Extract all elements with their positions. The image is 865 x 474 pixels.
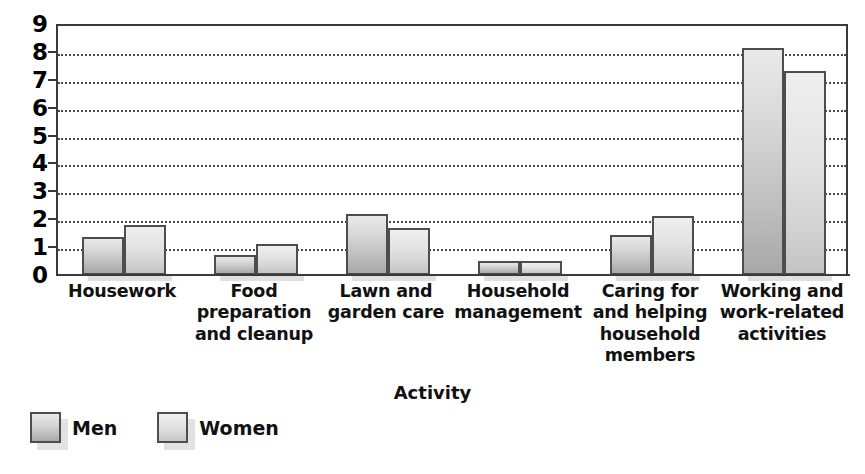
- gridline: [58, 249, 846, 251]
- x-axis-category-label: Working andwork-relatedactivities: [716, 281, 848, 345]
- bar-group: [214, 24, 298, 275]
- x-axis-category-label-line: Housework: [56, 281, 188, 302]
- bar-rect: [742, 48, 784, 275]
- x-axis-category-label-line: preparation: [188, 302, 320, 323]
- x-axis-category-label-line: Lawn and: [320, 281, 452, 302]
- x-axis-category-label-line: household: [584, 324, 716, 345]
- x-axis-category-label: Foodpreparationand cleanup: [188, 281, 320, 345]
- bar-rect: [478, 261, 520, 275]
- x-axis-category-label-line: members: [584, 345, 716, 366]
- y-axis-tick-mark: [48, 51, 57, 53]
- bar-men: [478, 261, 520, 275]
- y-axis-tick-label: 0: [14, 264, 48, 287]
- legend-swatch: [30, 412, 61, 443]
- y-axis-tick-mark: [48, 246, 57, 248]
- x-axis-category-label: Caring forand helpinghouseholdmembers: [584, 281, 716, 366]
- gridline: [58, 193, 846, 195]
- x-axis-category-label-line: activities: [716, 324, 848, 345]
- chart-legend: MenWomen: [30, 412, 319, 443]
- bar-women: [124, 225, 166, 275]
- x-axis-category-label-line: and cleanup: [188, 324, 320, 345]
- bar-women: [520, 261, 562, 275]
- bar-rect: [388, 228, 430, 275]
- legend-label: Women: [199, 417, 279, 439]
- x-axis-category-label-line: work-related: [716, 302, 848, 323]
- y-axis-tick-mark: [48, 107, 57, 109]
- y-axis-tick-mark: [48, 218, 57, 220]
- legend-label: Men: [72, 417, 117, 439]
- x-axis-category-label-line: Household: [452, 281, 584, 302]
- gridline: [58, 54, 846, 56]
- gridline: [58, 110, 846, 112]
- bar-group: [82, 24, 166, 275]
- legend-item-women[interactable]: Women: [157, 412, 319, 443]
- bar-rect: [214, 255, 256, 275]
- x-axis-title: Activity: [0, 382, 865, 403]
- gridline: [58, 221, 846, 223]
- bar-women: [256, 244, 298, 275]
- bar-rect: [520, 261, 562, 275]
- y-axis-tick-label: 3: [14, 180, 48, 203]
- y-axis-tick-mark: [48, 79, 57, 81]
- x-axis-category-label: Householdmanagement: [452, 281, 584, 324]
- x-axis-category-label-line: garden care: [320, 302, 452, 323]
- x-axis-category-label-line: Food: [188, 281, 320, 302]
- bar-women: [652, 216, 694, 275]
- x-axis-category-label-line: Working and: [716, 281, 848, 302]
- bar-men: [346, 214, 388, 275]
- plot-area: [56, 24, 848, 275]
- bar-rect: [610, 235, 652, 275]
- bar-rect: [346, 214, 388, 275]
- x-axis-category-label-line: Caring for: [584, 281, 716, 302]
- bar-men: [610, 235, 652, 275]
- x-axis-category-label-line: management: [452, 302, 584, 323]
- bar-men: [742, 48, 784, 275]
- y-axis-tick-label: 7: [14, 68, 48, 91]
- y-axis-tick-mark: [48, 162, 57, 164]
- bar-rect: [82, 237, 124, 275]
- y-axis-tick-label: 6: [14, 96, 48, 119]
- y-axis-tick-mark: [48, 135, 57, 137]
- legend-swatch: [157, 412, 188, 443]
- x-axis-category-label: Housework: [56, 281, 188, 302]
- y-axis-tick-label: 5: [14, 124, 48, 147]
- y-axis-tick-label: 2: [14, 208, 48, 231]
- y-axis-tick-label: 9: [14, 13, 48, 36]
- x-axis-category-label: Lawn andgarden care: [320, 281, 452, 324]
- bar-rect: [784, 71, 826, 275]
- y-axis-tick-label: 4: [14, 152, 48, 175]
- legend-item-men[interactable]: Men: [30, 412, 157, 443]
- bar-group: [742, 24, 826, 275]
- bar-group: [478, 24, 562, 275]
- y-axis-tick-mark: [48, 190, 57, 192]
- bar-rect: [124, 225, 166, 275]
- bar-group: [346, 24, 430, 275]
- y-axis-tick-label: 1: [14, 236, 48, 259]
- bar-women: [388, 228, 430, 275]
- bar-chart: 9876543210 Activity MenWomen HouseworkFo…: [0, 0, 865, 474]
- bar-men: [214, 255, 256, 275]
- x-axis-category-label-line: and helping: [584, 302, 716, 323]
- bar-men: [82, 237, 124, 275]
- gridline: [58, 165, 846, 167]
- gridline: [58, 82, 846, 84]
- bar-rect: [256, 244, 298, 275]
- x-axis-line: [56, 274, 850, 276]
- y-axis-tick-label: 8: [14, 40, 48, 63]
- gridline: [58, 138, 846, 140]
- bar-women: [784, 71, 826, 275]
- bar-rect: [652, 216, 694, 275]
- bar-group: [610, 24, 694, 275]
